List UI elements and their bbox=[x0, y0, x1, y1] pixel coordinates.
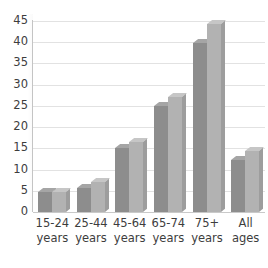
bar-chart: 051015202530354045 15-24years25-44years4… bbox=[0, 0, 268, 268]
bar bbox=[77, 188, 91, 212]
x-tick-label-line1: 15-24 bbox=[36, 216, 69, 230]
x-tick-label: 15-24years bbox=[33, 216, 72, 246]
bar-group bbox=[72, 21, 111, 212]
x-tick-label-line2: years bbox=[33, 231, 72, 246]
bar bbox=[207, 24, 221, 212]
bar-face bbox=[38, 192, 52, 212]
bar bbox=[168, 97, 182, 212]
bar bbox=[38, 192, 52, 212]
x-tick-label-line1: 65-74 bbox=[152, 216, 185, 230]
y-tick-label: 20 bbox=[2, 121, 28, 133]
bar-face bbox=[77, 188, 91, 212]
bar-group bbox=[33, 21, 72, 212]
bar-face bbox=[231, 160, 245, 212]
bar bbox=[52, 192, 66, 212]
bar bbox=[245, 151, 259, 212]
x-tick-label: 75+years bbox=[188, 216, 227, 246]
bar-side-face bbox=[259, 148, 263, 212]
y-tick-label: 5 bbox=[2, 185, 28, 197]
bar-side-face bbox=[66, 189, 70, 212]
bar-side-face bbox=[182, 93, 186, 212]
x-tick-label-line2: years bbox=[149, 231, 188, 246]
bar bbox=[129, 142, 143, 212]
bar-side-face bbox=[221, 21, 225, 212]
gridline bbox=[33, 212, 265, 213]
bar-face bbox=[154, 106, 168, 212]
x-tick-label-line2: years bbox=[72, 231, 111, 246]
x-tick-label-line2: ages bbox=[226, 231, 265, 246]
bar-face bbox=[168, 97, 182, 212]
bar-side-face bbox=[105, 179, 109, 212]
x-tick-label-line2: years bbox=[188, 231, 227, 246]
bar-group bbox=[110, 21, 149, 212]
y-tick-label: 10 bbox=[2, 164, 28, 176]
bar bbox=[115, 148, 129, 212]
chart-title-cutoff bbox=[0, 0, 268, 9]
x-tick-label: 25-44years bbox=[72, 216, 111, 246]
bar bbox=[154, 106, 168, 212]
x-tick-label: Allages bbox=[226, 216, 265, 246]
x-tick-label-line1: 75+ bbox=[195, 216, 219, 230]
x-tick-label-line1: All bbox=[239, 216, 253, 230]
bar-group bbox=[188, 21, 227, 212]
bar-face bbox=[245, 151, 259, 212]
bar-groups bbox=[33, 21, 265, 212]
x-axis-tick-labels: 15-24years25-44years45-64years65-74years… bbox=[33, 216, 265, 262]
y-tick-label: 15 bbox=[2, 142, 28, 154]
x-tick-label-line1: 25-44 bbox=[74, 216, 107, 230]
x-tick-label-line1: 45-64 bbox=[113, 216, 146, 230]
bar-face bbox=[52, 192, 66, 212]
bar-group bbox=[226, 21, 265, 212]
bar-group bbox=[149, 21, 188, 212]
x-tick-label: 45-64years bbox=[110, 216, 149, 246]
bar bbox=[91, 182, 105, 212]
x-tick-label: 65-74years bbox=[149, 216, 188, 246]
plot-area bbox=[33, 21, 265, 212]
y-tick-label: 35 bbox=[2, 57, 28, 69]
bar-face bbox=[91, 182, 105, 212]
bar-side-face bbox=[143, 139, 147, 212]
y-tick-label: 25 bbox=[2, 100, 28, 112]
bar bbox=[231, 160, 245, 212]
bar-face bbox=[207, 24, 221, 212]
y-tick-label: 45 bbox=[2, 15, 28, 27]
x-tick-label-line2: years bbox=[110, 231, 149, 246]
y-tick-label: 40 bbox=[2, 36, 28, 48]
bar bbox=[193, 43, 207, 212]
bar-face bbox=[193, 43, 207, 212]
y-tick-label: 30 bbox=[2, 79, 28, 91]
bar-face bbox=[115, 148, 129, 212]
bar-face bbox=[129, 142, 143, 212]
y-tick-label: 0 bbox=[2, 206, 28, 218]
